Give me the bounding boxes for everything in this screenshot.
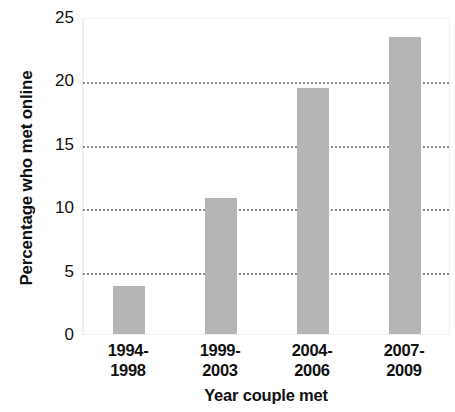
y-axis-tick-label: 5 xyxy=(36,262,74,282)
y-axis-tick-label: 10 xyxy=(36,198,74,218)
bar xyxy=(297,88,329,334)
y-axis-tick-label: 15 xyxy=(36,135,74,155)
x-axis-title: Year couple met xyxy=(82,386,450,405)
bar xyxy=(205,198,237,334)
plot-area xyxy=(82,18,450,335)
x-axis-tick-label-line: 1999- xyxy=(172,340,268,360)
y-axis-tick-label: 20 xyxy=(36,71,74,91)
x-axis-tick-label: 2007-2009 xyxy=(356,340,452,380)
y-axis-tick-label: 25 xyxy=(36,8,74,28)
x-axis-tick-label: 1994-1998 xyxy=(80,340,176,380)
x-axis-tick-label: 1999-2003 xyxy=(172,340,268,380)
y-axis-tick-label: 0 xyxy=(36,325,74,345)
bar xyxy=(113,286,145,334)
x-axis-tick-label-line: 2007- xyxy=(356,340,452,360)
x-axis-tick-label-line: 2009 xyxy=(356,360,452,380)
x-axis-tick-label: 2004-2006 xyxy=(264,340,360,380)
bar xyxy=(389,37,421,334)
x-axis-tick-label-line: 2003 xyxy=(172,360,268,380)
x-axis-tick-label-line: 1994- xyxy=(80,340,176,360)
bar-chart-figure: Percentage who met online 0510152025 199… xyxy=(0,0,455,412)
x-axis-tick-label-line: 2006 xyxy=(264,360,360,380)
x-axis-tick-label-line: 1998 xyxy=(80,360,176,380)
x-axis-tick-label-line: 2004- xyxy=(264,340,360,360)
y-axis-title: Percentage who met online xyxy=(17,13,37,343)
